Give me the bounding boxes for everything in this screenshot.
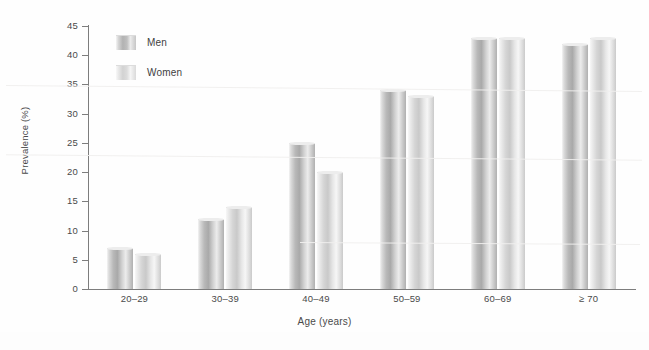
y-axis-tick-label: 20	[40, 167, 78, 177]
x-axis-tick-label: 60–69	[453, 293, 543, 304]
y-axis-tick-label: 30	[40, 109, 78, 119]
x-axis-tick-label: 30–39	[180, 293, 270, 304]
bar-top-cap	[289, 142, 315, 145]
bar-men-3	[380, 90, 406, 289]
x-axis-title: Age (years)	[0, 316, 649, 327]
x-axis-line	[88, 289, 636, 290]
y-axis-tick-label: 45	[40, 21, 78, 31]
y-axis-tick-label: 0	[40, 284, 78, 294]
bar-chart-figure: 454035302520151050 Prevalence (%) 20–293…	[0, 0, 649, 350]
y-axis-tick	[82, 114, 88, 115]
x-axis-tick-label: 40–49	[271, 293, 361, 304]
bar-women-0	[135, 254, 161, 289]
y-axis-tick-label: 15	[40, 196, 78, 206]
x-axis-tick-label: 20–29	[89, 293, 179, 304]
bar-top-cap	[198, 218, 224, 221]
legend-label-women: Women	[147, 67, 182, 78]
y-axis-tick	[82, 84, 88, 85]
x-axis-tick-label: 50–59	[362, 293, 452, 304]
legend-item-men: Men	[116, 32, 182, 52]
bar-top-cap	[317, 171, 343, 174]
y-axis-tick	[82, 260, 88, 261]
bar-men-0	[107, 248, 133, 289]
bar-top-cap	[380, 89, 406, 92]
y-axis-tick-label: 5	[40, 255, 78, 265]
legend-swatch-women-icon	[116, 65, 136, 80]
legend-swatch-men-icon	[116, 35, 136, 50]
bar-women-5	[590, 38, 616, 289]
y-axis-title: Prevalence (%)	[19, 76, 30, 206]
bar-top-cap	[408, 95, 434, 98]
bar-top-cap	[499, 37, 525, 40]
bar-women-3	[408, 96, 434, 289]
y-axis-tick-label: 10	[40, 226, 78, 236]
bar-top-cap	[135, 253, 161, 256]
x-axis-tick-label: ≥ 70	[544, 293, 634, 304]
y-axis-tick-label: 25	[40, 138, 78, 148]
bar-men-1	[198, 219, 224, 289]
y-axis-tick	[82, 231, 88, 232]
y-axis-tick-label: 35	[40, 79, 78, 89]
bar-women-1	[226, 207, 252, 289]
bar-top-cap	[226, 206, 252, 209]
bar-men-2	[289, 143, 315, 289]
bar-top-cap	[107, 247, 133, 250]
legend-item-women: Women	[116, 62, 182, 82]
y-axis-tick-label: 40	[40, 50, 78, 60]
page-margin	[0, 332, 649, 350]
bar-men-4	[471, 38, 497, 289]
y-axis-tick	[82, 201, 88, 202]
bar-top-cap	[471, 37, 497, 40]
y-axis-tick	[82, 55, 88, 56]
bar-women-2	[317, 172, 343, 289]
chart-legend: Men Women	[116, 32, 182, 92]
y-axis-tick	[82, 289, 88, 290]
y-axis-tick	[82, 172, 88, 173]
y-axis-tick	[82, 26, 88, 27]
bar-top-cap	[590, 37, 616, 40]
bar-men-5	[562, 44, 588, 289]
legend-label-men: Men	[147, 37, 167, 48]
bar-women-4	[499, 38, 525, 289]
y-axis-tick	[82, 143, 88, 144]
bar-top-cap	[562, 43, 588, 46]
